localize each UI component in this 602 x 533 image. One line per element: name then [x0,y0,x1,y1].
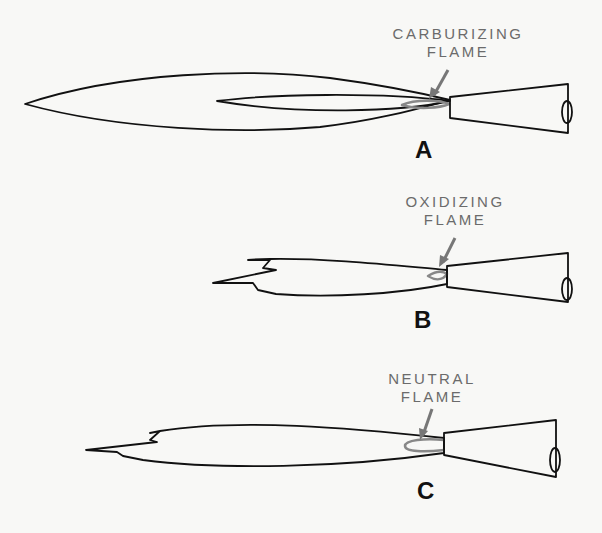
outer-envelope-a [25,73,450,130]
panel-letter-b: B [414,306,431,334]
label-c-line1: NEUTRAL [382,370,482,388]
torch-tip-a [450,84,568,133]
torch-tip-b [447,253,568,302]
label-carburizing: CARBURIZING FLAME [378,25,538,61]
label-oxidizing: OXIDIZING FLAME [400,193,510,229]
tip-bore-c [550,448,560,472]
torch-tip-c [444,420,556,477]
label-b-line2: FLAME [400,211,510,229]
tip-bore-b [562,278,572,300]
flame-diagram: CARBURIZING FLAME A OXIDIZING FLAME B NE… [0,0,602,533]
panel-a-drawing [25,73,572,133]
panel-letter-a: A [415,136,432,164]
inner-cone-c [405,439,444,451]
panel-c-drawing [86,420,560,477]
label-c-line2: FLAME [382,388,482,406]
label-a-line1: CARBURIZING [378,25,538,43]
flame-drawings [0,0,602,533]
label-a-line2: FLAME [378,43,538,61]
label-neutral: NEUTRAL FLAME [382,370,482,406]
inner-cone-a [402,101,449,108]
tip-bore-a [562,101,572,123]
label-b-line1: OXIDIZING [400,193,510,211]
panel-b-drawing [213,253,572,302]
inner-cone-b [428,272,447,279]
panel-letter-c: C [417,477,434,505]
outer-envelope-c [86,425,444,466]
outer-envelope-b [213,259,447,296]
